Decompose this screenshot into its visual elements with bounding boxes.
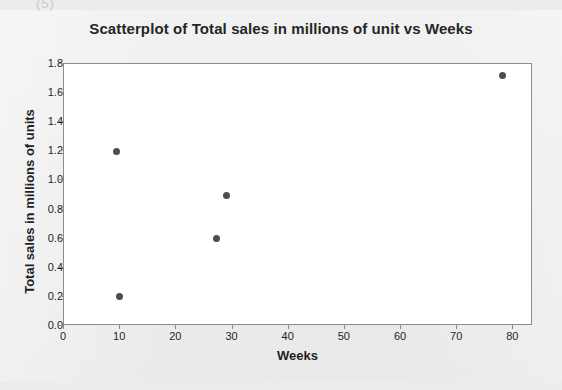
x-tick-label: 50 — [338, 330, 350, 342]
x-axis-title: Weeks — [63, 348, 532, 363]
y-tick-mark — [59, 121, 63, 122]
x-tick-label: 20 — [169, 330, 181, 342]
chart-title: Scatterplot of Total sales in millions o… — [0, 20, 562, 37]
x-tick-mark — [288, 325, 289, 329]
x-tick-label: 10 — [113, 330, 125, 342]
y-tick-mark — [59, 296, 63, 297]
data-point — [213, 235, 220, 242]
y-tick-label: 0.0 — [29, 319, 63, 331]
x-tick-mark — [63, 325, 64, 329]
y-axis-title: Total sales in millions of units — [22, 87, 37, 317]
x-tick-mark — [400, 325, 401, 329]
x-tick-mark — [232, 325, 233, 329]
y-tick-mark — [59, 238, 63, 239]
x-tick-mark — [175, 325, 176, 329]
x-tick-mark — [512, 325, 513, 329]
y-tick-mark — [59, 209, 63, 210]
plot-area — [63, 63, 532, 325]
x-tick-mark — [456, 325, 457, 329]
y-tick-mark — [59, 63, 63, 64]
y-tick-mark — [59, 92, 63, 93]
x-tick-label: 60 — [394, 330, 406, 342]
x-tick-label: 70 — [450, 330, 462, 342]
x-tick-mark — [344, 325, 345, 329]
y-tick-mark — [59, 179, 63, 180]
x-tick-label: 40 — [282, 330, 294, 342]
y-tick-label: 1.8 — [29, 57, 63, 69]
data-point — [223, 192, 230, 199]
data-point — [116, 293, 123, 300]
x-tick-label: 30 — [225, 330, 237, 342]
data-point — [113, 148, 120, 155]
scatterplot-chart: Scatterplot of Total sales in millions o… — [0, 0, 562, 390]
x-tick-label: 80 — [506, 330, 518, 342]
y-tick-mark — [59, 150, 63, 151]
x-tick-mark — [119, 325, 120, 329]
y-tick-mark — [59, 267, 63, 268]
x-tick-label: 0 — [60, 330, 66, 342]
data-point — [499, 72, 506, 79]
